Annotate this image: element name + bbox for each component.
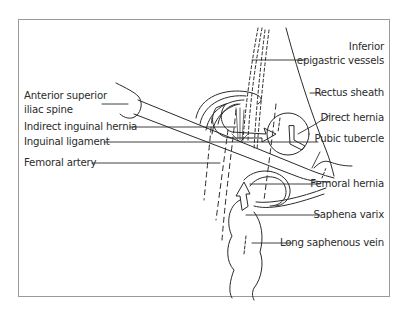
label-anterior-superior-iliac-spine-1: Anterior superior: [24, 90, 107, 102]
direct-hernia-drawing: [267, 113, 309, 155]
label-femoral-artery: Femoral artery: [24, 157, 96, 169]
label-long-saphenous-vein: Long saphenous vein: [280, 237, 384, 249]
indirect-hernia-drawing: [196, 91, 276, 142]
pubic-tubercle-drawing: [314, 161, 352, 168]
label-inferior-epigastric-2: epigastric vessels: [297, 55, 384, 67]
label-saphena-varix: Saphena varix: [313, 209, 384, 221]
femoral-hernia-drawing: [236, 171, 326, 210]
label-inferior-epigastric-1: Inferior: [349, 41, 384, 53]
pubic-tubercle-tick: [322, 168, 326, 178]
label-direct-hernia: Direct hernia: [321, 112, 384, 124]
label-anterior-superior-iliac-spine-2: iliac spine: [24, 104, 73, 116]
label-inguinal-ligament: Inguinal ligament: [24, 136, 110, 148]
label-femoral-hernia: Femoral hernia: [310, 178, 384, 190]
rectus-sheath-drawing: [286, 28, 334, 176]
leader-lines: [92, 60, 330, 243]
label-indirect-inguinal-hernia: Indirect inguinal hernia: [24, 121, 137, 133]
label-pubic-tubercle: Pubic tubercle: [314, 133, 384, 145]
label-rectus-sheath: Rectus sheath: [314, 87, 384, 99]
